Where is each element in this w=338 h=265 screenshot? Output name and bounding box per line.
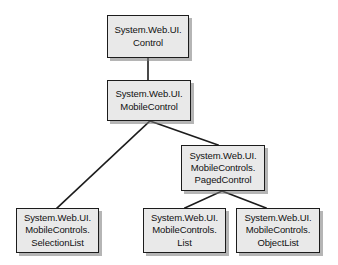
class-node-pagedcontrol-line-2: MobileControls.	[191, 162, 256, 174]
class-node-mobilecontrol-line-1: System.Web.UI.	[115, 88, 182, 100]
class-node-list-line-3: List	[177, 237, 191, 249]
edge-pagedcontrol-to-list	[185, 191, 222, 208]
class-node-pagedcontrol-line-3: PagedControl	[195, 174, 252, 186]
class-node-objectlist[interactable]: System.Web.UI. MobileControls. ObjectLis…	[236, 208, 320, 253]
class-node-selectionlist-line-1: System.Web.UI.	[24, 212, 91, 224]
edge-mobilecontrol-to-selectionlist	[57, 121, 150, 208]
class-node-objectlist-line-1: System.Web.UI.	[244, 212, 311, 224]
class-node-control-line-1: System.Web.UI.	[114, 24, 181, 36]
class-node-list-line-2: MobileControls.	[152, 224, 217, 236]
edge-mobilecontrol-to-pagedcontrol	[150, 121, 218, 145]
class-node-control[interactable]: System.Web.UI. Control	[107, 15, 189, 58]
class-node-selectionlist-line-3: SelectionList	[31, 237, 84, 249]
class-hierarchy-diagram: System.Web.UI. Control System.Web.UI. Mo…	[0, 0, 338, 265]
class-node-mobilecontrol-line-2: MobileControl	[120, 101, 177, 113]
class-node-pagedcontrol-line-1: System.Web.UI.	[189, 150, 256, 162]
edge-pagedcontrol-to-objectlist	[222, 191, 266, 208]
class-node-mobilecontrol[interactable]: System.Web.UI. MobileControl	[107, 80, 191, 121]
class-node-control-line-2: Control	[133, 37, 163, 49]
class-node-pagedcontrol[interactable]: System.Web.UI. MobileControls. PagedCont…	[181, 145, 265, 191]
class-node-list-line-1: System.Web.UI.	[151, 212, 218, 224]
class-node-objectlist-line-3: ObjectList	[257, 237, 298, 249]
class-node-list[interactable]: System.Web.UI. MobileControls. List	[143, 208, 226, 253]
class-node-selectionlist-line-2: MobileControls.	[25, 224, 90, 236]
class-node-selectionlist[interactable]: System.Web.UI. MobileControls. Selection…	[16, 208, 99, 253]
class-node-objectlist-line-2: MobileControls.	[246, 224, 311, 236]
